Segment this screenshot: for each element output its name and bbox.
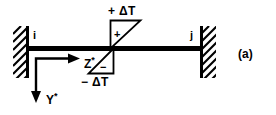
node-label-j: j	[190, 30, 193, 41]
negative-delta-t-label: − ΔT	[81, 76, 109, 88]
z-axis-arrow-right-icon	[68, 54, 80, 64]
y-axis-label: Y*	[46, 92, 58, 106]
right-support-icon	[201, 26, 217, 84]
beam-member	[28, 46, 202, 51]
right-support-hatching	[201, 26, 217, 84]
negative-sign: −	[100, 62, 106, 73]
thermal-gradient-beam-figure: + ΔT + − − ΔT i j Z* Y* (a)	[0, 0, 276, 115]
y-axis-letter: Y	[46, 93, 54, 107]
y-axis-arrow-down-icon	[31, 91, 41, 103]
node-label-i: i	[33, 30, 36, 41]
positive-sign: +	[114, 29, 120, 40]
figure-drawing-canvas	[0, 0, 276, 115]
z-axis-star: *	[91, 55, 95, 65]
left-support-icon	[13, 26, 29, 84]
positive-delta-t-label: + ΔT	[108, 5, 136, 17]
figure-caption: (a)	[238, 48, 253, 60]
y-axis-star: *	[54, 91, 58, 101]
z-axis-label: Z*	[84, 56, 95, 70]
